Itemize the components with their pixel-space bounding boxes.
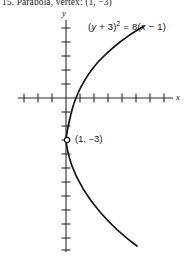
figure-page: 15. Parabola, vertex: (1, −3) (y + 3)2 =… [0, 0, 186, 258]
parabola-graph [0, 0, 186, 258]
y-axis-label: y [62, 8, 66, 18]
vertex-marker [64, 137, 69, 142]
x-axis-label: x [176, 92, 180, 102]
vertex-point-label: (1, −3) [75, 134, 103, 144]
